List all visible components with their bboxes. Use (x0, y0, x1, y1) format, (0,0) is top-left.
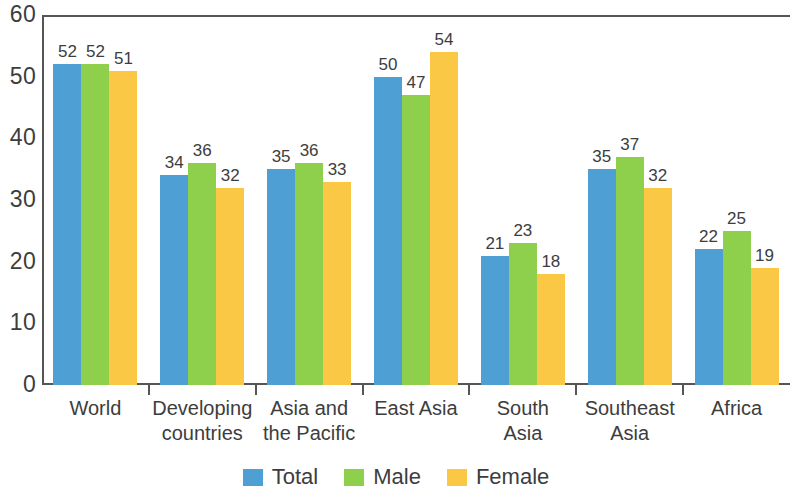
bar-male (188, 163, 216, 385)
bar-wrapper: 36 (188, 15, 216, 385)
x-axis-category-label: SouthAsia (469, 396, 576, 446)
bar-wrapper: 36 (295, 15, 323, 385)
x-axis-category-label: Africa (683, 396, 790, 421)
bar-wrapper: 50 (374, 15, 402, 385)
bar-wrapper: 32 (644, 15, 672, 385)
legend-item-female[interactable]: Female (447, 466, 549, 488)
bar-male (81, 64, 109, 385)
legend-label: Female (476, 466, 549, 488)
x-axis-category-label: Asia andthe Pacific (256, 396, 363, 446)
x-axis-category-label: World (42, 396, 149, 421)
x-axis-category-line: countries (149, 421, 256, 446)
bar-group: 212318 (469, 15, 576, 385)
bar-group-bars: 343632 (149, 15, 256, 385)
bar-group: 353732 (576, 15, 683, 385)
y-tick-label: 0 (2, 373, 36, 396)
x-axis-category-line: the Pacific (256, 421, 363, 446)
legend-swatch-icon (243, 469, 263, 486)
bar-female (751, 268, 779, 385)
bar-value-label: 32 (638, 167, 678, 184)
x-axis-category-label: SoutheastAsia (576, 396, 683, 446)
x-tick (468, 385, 470, 395)
x-axis-ticks (42, 385, 790, 395)
bar-group-bars: 353732 (576, 15, 683, 385)
y-tick-label: 50 (2, 65, 36, 88)
bar-value-label: 32 (210, 167, 250, 184)
bar-group: 222519 (683, 15, 790, 385)
bar-wrapper: 35 (588, 15, 616, 385)
bar-female (216, 188, 244, 385)
bar-wrapper: 33 (323, 15, 351, 385)
bar-wrapper: 34 (160, 15, 188, 385)
legend-label: Total (272, 466, 318, 488)
x-axis-category-line: Africa (683, 396, 790, 421)
bar-wrapper: 52 (81, 15, 109, 385)
x-axis-category-line: Asia and (256, 396, 363, 421)
x-axis-category-label: East Asia (363, 396, 470, 421)
legend-item-total[interactable]: Total (243, 466, 318, 488)
bar-wrapper: 37 (616, 15, 644, 385)
bar-wrapper: 47 (402, 15, 430, 385)
bar-value-label: 33 (317, 161, 357, 178)
x-axis-category-line: World (42, 396, 149, 421)
bar-total (481, 256, 509, 386)
bar-male (616, 157, 644, 385)
bar-female (109, 71, 137, 386)
bar-total (374, 77, 402, 385)
bar-female (323, 182, 351, 386)
x-axis-category-line: Developing (149, 396, 256, 421)
bar-total (588, 169, 616, 385)
bar-male (295, 163, 323, 385)
bar-wrapper: 23 (509, 15, 537, 385)
legend-swatch-icon (447, 469, 467, 486)
x-tick (148, 385, 150, 395)
bar-group-bars: 504754 (363, 15, 470, 385)
bar-wrapper: 51 (109, 15, 137, 385)
legend-item-male[interactable]: Male (344, 466, 421, 488)
y-tick-label: 40 (2, 126, 36, 149)
bar-wrapper: 21 (481, 15, 509, 385)
bar-total (267, 169, 295, 385)
x-tick (255, 385, 257, 395)
bar-female (644, 188, 672, 385)
bar-value-label: 54 (424, 31, 464, 48)
x-axis-category-line: Asia (469, 421, 576, 446)
x-axis-labels: WorldDevelopingcountriesAsia andthe Paci… (42, 396, 790, 458)
y-tick-label: 30 (2, 188, 36, 211)
bar-female (430, 52, 458, 385)
x-axis-category-line: Southeast (576, 396, 683, 421)
x-axis-category-line: Asia (576, 421, 683, 446)
legend-swatch-icon (344, 469, 364, 486)
bar-value-label: 18 (531, 253, 571, 270)
plot-area: 5252513436323536335047542123183537322225… (42, 15, 790, 385)
bar-male (402, 95, 430, 385)
bar-female (537, 274, 565, 385)
bar-value-label: 51 (103, 50, 143, 67)
bar-group-bars: 212318 (469, 15, 576, 385)
bar-wrapper: 19 (751, 15, 779, 385)
bar-group-bars: 222519 (683, 15, 790, 385)
x-tick (682, 385, 684, 395)
bar-wrapper: 32 (216, 15, 244, 385)
y-tick-label: 20 (2, 250, 36, 273)
bar-total (160, 175, 188, 385)
y-axis: 6050403020100 (0, 0, 36, 499)
bar-wrapper: 54 (430, 15, 458, 385)
bar-group: 504754 (363, 15, 470, 385)
bar-wrapper: 35 (267, 15, 295, 385)
bar-group: 353633 (256, 15, 363, 385)
x-tick (575, 385, 577, 395)
x-axis-category-line: South (469, 396, 576, 421)
bar-total (695, 249, 723, 385)
bar-group: 343632 (149, 15, 256, 385)
x-tick (362, 385, 364, 395)
bar-total (53, 64, 81, 385)
bar-group-bars: 525251 (42, 15, 149, 385)
x-axis-category-line: East Asia (363, 396, 470, 421)
bar-group: 525251 (42, 15, 149, 385)
x-axis-category-label: Developingcountries (149, 396, 256, 446)
bar-value-label: 19 (745, 247, 785, 264)
chart-legend: TotalMaleFemale (0, 466, 792, 488)
bar-wrapper: 52 (53, 15, 81, 385)
bar-wrapper: 18 (537, 15, 565, 385)
